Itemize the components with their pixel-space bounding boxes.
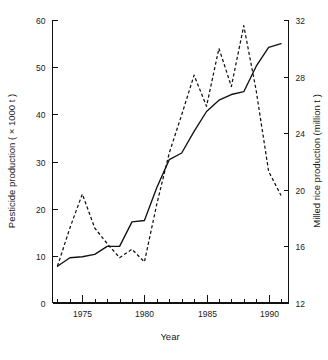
chart-figure: 0102030405060 121620242832 1975198019851… — [0, 0, 328, 360]
x-axis-ticks: 1975198019851990 — [58, 295, 282, 319]
dual-axis-line-chart: 0102030405060 121620242832 1975198019851… — [0, 0, 328, 360]
right-tick-label: 32 — [296, 16, 306, 26]
left-tick-label: 20 — [36, 205, 46, 215]
left-axis-title: Pesticide production ( × 1000 t ) — [6, 94, 17, 228]
left-axis-ticks: 0102030405060 — [36, 16, 57, 309]
left-tick-label: 30 — [36, 158, 46, 168]
left-tick-label: 0 — [41, 299, 46, 309]
left-tick-label: 10 — [36, 252, 46, 262]
series-milled-rice-production-line — [57, 26, 281, 267]
right-axis-ticks: 121620242832 — [284, 16, 306, 309]
right-tick-label: 24 — [296, 129, 306, 139]
right-tick-label: 28 — [296, 73, 306, 83]
x-major-tick-label: 1990 — [260, 309, 279, 319]
left-tick-label: 60 — [36, 16, 46, 26]
x-axis-title: Year — [160, 331, 179, 342]
x-major-tick-label: 1980 — [135, 309, 154, 319]
left-tick-label: 40 — [36, 110, 46, 120]
right-axis-title: Milled rice production (million t ) — [311, 94, 322, 228]
x-major-tick-label: 1975 — [73, 309, 92, 319]
right-tick-label: 16 — [296, 242, 306, 252]
right-tick-label: 20 — [296, 186, 306, 196]
series-layer — [57, 26, 281, 267]
left-tick-label: 50 — [36, 63, 46, 73]
x-major-tick-label: 1985 — [198, 309, 217, 319]
right-tick-label: 12 — [296, 299, 306, 309]
